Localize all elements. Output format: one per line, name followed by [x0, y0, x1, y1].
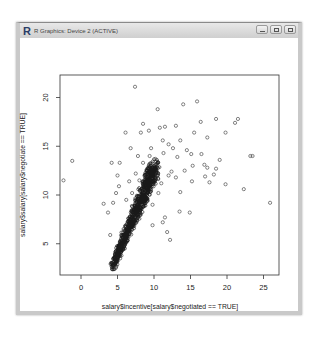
data-point: [206, 166, 209, 169]
data-point: [182, 103, 185, 106]
data-point: [188, 211, 191, 214]
data-point: [149, 147, 152, 150]
x-tick-label: 0: [79, 283, 83, 292]
data-point: [224, 131, 227, 134]
data-point: [179, 139, 182, 142]
data-point: [141, 122, 144, 125]
data-point: [128, 180, 131, 183]
data-point: [110, 161, 113, 164]
data-point: [118, 161, 121, 164]
data-point: [185, 149, 188, 152]
data-point: [116, 174, 119, 177]
data-point: [251, 154, 254, 157]
data-point: [102, 202, 105, 205]
data-point: [218, 158, 221, 161]
y-tick-label: 20: [41, 93, 50, 101]
data-point: [106, 211, 109, 214]
x-tick-label: 25: [259, 283, 267, 292]
data-point: [214, 167, 217, 170]
data-point: [233, 121, 236, 124]
y-axis-label: salary$salary[salary$negotiate == TRUE]: [19, 113, 27, 237]
plot-box: [60, 75, 279, 275]
data-point: [190, 152, 193, 155]
data-point: [200, 152, 203, 155]
y-tick-label: 15: [41, 142, 50, 150]
data-point: [163, 216, 166, 219]
data-point: [136, 154, 139, 157]
data-point: [162, 151, 165, 154]
data-point: [129, 147, 132, 150]
data-point: [170, 170, 173, 173]
y-tick-label: 5: [41, 242, 50, 246]
data-point: [148, 154, 151, 157]
y-axis: 5101520: [41, 93, 60, 246]
data-point: [208, 181, 211, 184]
x-tick-label: 15: [186, 283, 194, 292]
data-point: [133, 85, 136, 88]
data-point: [236, 117, 239, 120]
data-point: [242, 188, 245, 191]
data-point: [204, 175, 207, 178]
data-point: [191, 164, 194, 167]
x-axis-label: salary$incentive[salary$negotiated == TR…: [102, 303, 238, 311]
data-point: [167, 143, 170, 146]
data-point: [147, 129, 150, 132]
data-point: [114, 191, 117, 194]
x-tick-label: 5: [115, 283, 119, 292]
data-point: [156, 108, 159, 111]
data-point: [131, 191, 134, 194]
data-point: [157, 191, 160, 194]
data-point: [71, 159, 74, 162]
data-points: [62, 85, 272, 241]
data-point: [168, 238, 171, 241]
data-point: [160, 182, 163, 185]
data-point: [151, 224, 154, 227]
data-point: [193, 131, 196, 134]
data-point: [203, 163, 206, 166]
data-point: [151, 203, 154, 206]
data-point: [139, 131, 142, 134]
data-point: [161, 139, 164, 142]
data-point: [62, 179, 65, 182]
data-point: [161, 221, 164, 224]
data-point: [206, 136, 209, 139]
data-point: [190, 180, 193, 183]
data-point: [117, 185, 120, 188]
data-point: [212, 173, 215, 176]
data-point: [268, 201, 271, 204]
y-tick-label: 10: [41, 191, 50, 199]
data-point: [138, 179, 141, 182]
data-point: [214, 117, 217, 120]
x-tick-label: 20: [223, 283, 231, 292]
data-point: [134, 172, 137, 175]
data-point: [224, 183, 227, 186]
data-point: [125, 198, 128, 201]
data-point: [171, 147, 174, 150]
data-point: [124, 131, 127, 134]
data-point: [176, 155, 179, 158]
data-point: [199, 120, 202, 123]
data-point: [158, 126, 161, 129]
data-point: [195, 100, 198, 103]
data-point: [163, 125, 166, 128]
data-point: [174, 176, 177, 179]
data-point: [141, 161, 144, 164]
scatter-plot: 0510152025 5101520 salary$incentive[sala…: [0, 0, 318, 345]
data-point: [174, 124, 177, 127]
data-point: [167, 174, 170, 177]
data-point: [166, 230, 169, 233]
data-point: [178, 210, 181, 213]
x-tick-label: 10: [150, 283, 158, 292]
x-axis: 0510152025: [79, 275, 268, 292]
data-point: [183, 169, 186, 172]
data-point: [109, 233, 112, 236]
data-point: [179, 190, 182, 193]
data-point: [112, 201, 115, 204]
